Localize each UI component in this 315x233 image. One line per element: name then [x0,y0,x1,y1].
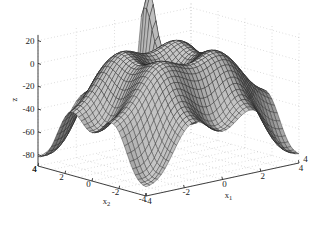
z-tick-label: -40 [23,104,35,114]
z-tick-label: -80 [23,150,35,160]
surface-plot-figure: 200-20-40-60-80z420-2-4x2-4-2024x144 z x… [0,0,315,233]
x2-tick-label: 2 [59,172,64,182]
x2-tick-label: -2 [112,187,120,197]
z-tick-label: -20 [23,81,35,91]
x1-tick-label-far: 4 [303,154,308,164]
x1-tick-label: -2 [183,187,191,197]
x1-tick-label: 2 [261,171,266,181]
x1-tick-label: -4 [144,196,152,206]
x2-tick-label: 0 [86,179,91,189]
x1-tick-label: 4 [299,163,304,173]
z-tick-label: 0 [30,59,35,69]
x2-tick-label: 4 [32,164,37,174]
plot-canvas: 200-20-40-60-80z420-2-4x2-4-2024x144 [0,0,315,233]
z-tick-label: -60 [23,127,35,137]
x1-tick-label: 0 [222,179,227,189]
z-tick-label: 20 [26,36,36,46]
z-axis-label: z [9,97,19,101]
